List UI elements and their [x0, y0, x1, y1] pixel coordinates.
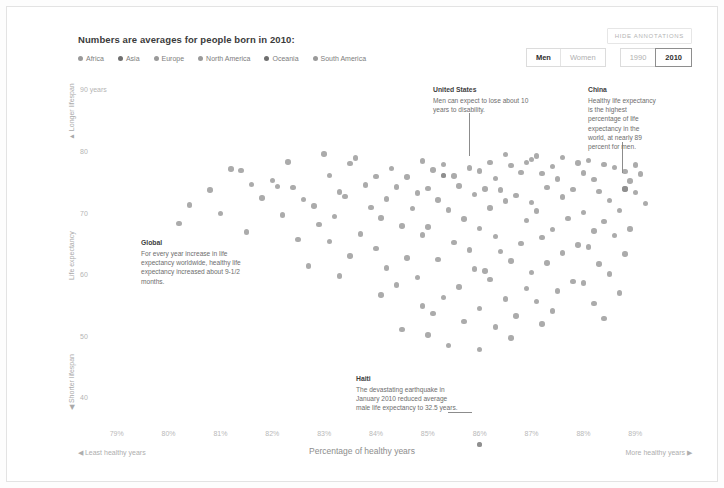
scatter-point[interactable]: [544, 185, 550, 191]
scatter-point[interactable]: [378, 215, 384, 221]
scatter-point[interactable]: [332, 214, 338, 220]
scatter-point[interactable]: [280, 212, 286, 218]
scatter-point[interactable]: [435, 257, 441, 263]
scatter-point[interactable]: [539, 235, 545, 241]
legend-item-europe[interactable]: Europe: [154, 55, 185, 62]
scatter-point[interactable]: [389, 166, 395, 172]
scatter-point[interactable]: [539, 321, 545, 327]
scatter-point[interactable]: [477, 168, 483, 174]
scatter-point[interactable]: [425, 186, 431, 192]
scatter-point[interactable]: [591, 301, 597, 307]
legend-item-oceania[interactable]: Oceania: [264, 55, 298, 62]
scatter-point[interactable]: [607, 271, 613, 277]
scatter-point[interactable]: [461, 216, 467, 222]
scatter-point[interactable]: [259, 195, 265, 201]
scatter-point[interactable]: [347, 253, 353, 259]
scatter-point[interactable]: [420, 303, 426, 309]
scatter-point-united-states[interactable]: [441, 173, 447, 179]
scatter-point[interactable]: [591, 228, 597, 234]
scatter-point[interactable]: [430, 167, 436, 173]
scatter-point[interactable]: [643, 201, 649, 207]
scatter-point[interactable]: [295, 237, 301, 243]
scatter-point[interactable]: [524, 286, 530, 292]
scatter-point[interactable]: [627, 178, 633, 184]
scatter-point[interactable]: [337, 273, 343, 279]
scatter-point[interactable]: [487, 277, 493, 283]
scatter-point[interactable]: [565, 216, 571, 222]
scatter-point[interactable]: [316, 222, 322, 228]
scatter-point[interactable]: [446, 207, 452, 213]
scatter-point[interactable]: [373, 174, 379, 180]
scatter-point[interactable]: [487, 160, 493, 166]
scatter-point[interactable]: [581, 170, 587, 176]
scatter-point[interactable]: [498, 249, 504, 255]
scatter-point[interactable]: [285, 159, 291, 165]
scatter-point[interactable]: [399, 223, 405, 229]
scatter-point[interactable]: [612, 165, 618, 171]
scatter-point[interactable]: [404, 174, 410, 180]
legend-item-africa[interactable]: Africa: [78, 55, 104, 62]
toggle-1990[interactable]: 1990: [621, 49, 657, 66]
legend-item-north-america[interactable]: North America: [198, 55, 250, 62]
scatter-point[interactable]: [441, 162, 447, 168]
scatter-point[interactable]: [451, 173, 457, 179]
scatter-point[interactable]: [560, 155, 566, 161]
scatter-point[interactable]: [591, 177, 597, 183]
scatter-point[interactable]: [378, 292, 384, 298]
scatter-point[interactable]: [446, 343, 452, 349]
scatter-point[interactable]: [539, 171, 545, 177]
scatter-point[interactable]: [575, 242, 581, 248]
scatter-point[interactable]: [321, 151, 327, 157]
scatter-point[interactable]: [430, 311, 436, 317]
scatter-point[interactable]: [503, 198, 509, 204]
scatter-point[interactable]: [327, 173, 333, 179]
scatter-point[interactable]: [627, 226, 633, 232]
scatter-point[interactable]: [353, 155, 359, 161]
scatter-point[interactable]: [384, 196, 390, 202]
scatter-point[interactable]: [534, 208, 540, 214]
scatter-point[interactable]: [513, 193, 519, 199]
scatter-point[interactable]: [487, 205, 493, 211]
scatter-point[interactable]: [384, 265, 390, 271]
scatter-point[interactable]: [581, 210, 587, 216]
scatter-point[interactable]: [482, 186, 488, 192]
scatter-point[interactable]: [435, 197, 441, 203]
scatter-point[interactable]: [347, 161, 353, 167]
scatter-point-china[interactable]: [622, 186, 628, 192]
scatter-point[interactable]: [425, 332, 431, 338]
scatter-point[interactable]: [218, 211, 224, 217]
scatter-point[interactable]: [404, 255, 410, 261]
sex-toggle-group[interactable]: Men Women: [526, 48, 606, 67]
scatter-point[interactable]: [529, 270, 535, 276]
scatter-point[interactable]: [586, 244, 592, 250]
scatter-point[interactable]: [425, 224, 431, 230]
scatter-point[interactable]: [575, 160, 581, 166]
scatter-point[interactable]: [560, 250, 566, 256]
scatter-point[interactable]: [306, 263, 312, 269]
scatter-point[interactable]: [275, 184, 281, 190]
scatter-point[interactable]: [596, 261, 602, 267]
toggle-men[interactable]: Men: [527, 49, 561, 66]
scatter-point[interactable]: [451, 240, 457, 246]
scatter-point[interactable]: [586, 158, 592, 164]
scatter-point[interactable]: [508, 258, 514, 264]
scatter-point[interactable]: [420, 232, 426, 238]
scatter-point[interactable]: [529, 157, 535, 163]
scatter-point[interactable]: [467, 247, 473, 253]
scatter-point[interactable]: [570, 279, 576, 285]
scatter-point[interactable]: [534, 153, 540, 159]
scatter-point[interactable]: [477, 347, 483, 353]
scatter-point[interactable]: [176, 221, 182, 227]
scatter-point[interactable]: [607, 198, 613, 204]
scatter-point[interactable]: [244, 229, 250, 235]
scatter-point[interactable]: [617, 290, 623, 296]
scatter-point[interactable]: [518, 170, 524, 176]
scatter-point[interactable]: [508, 335, 514, 341]
scatter-point[interactable]: [555, 176, 561, 182]
scatter-point[interactable]: [467, 165, 473, 171]
legend-item-south-america[interactable]: South America: [313, 55, 367, 62]
scatter-point[interactable]: [342, 194, 348, 200]
scatter-point[interactable]: [373, 246, 379, 252]
scatter-point[interactable]: [238, 168, 244, 174]
scatter-point[interactable]: [529, 200, 535, 206]
